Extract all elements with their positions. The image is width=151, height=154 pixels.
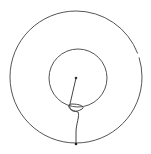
bottom-point (75, 143, 78, 146)
connecting-curve (69, 78, 83, 144)
center-point (75, 77, 78, 80)
diagram-canvas (0, 0, 151, 154)
inner-circle (49, 49, 107, 107)
